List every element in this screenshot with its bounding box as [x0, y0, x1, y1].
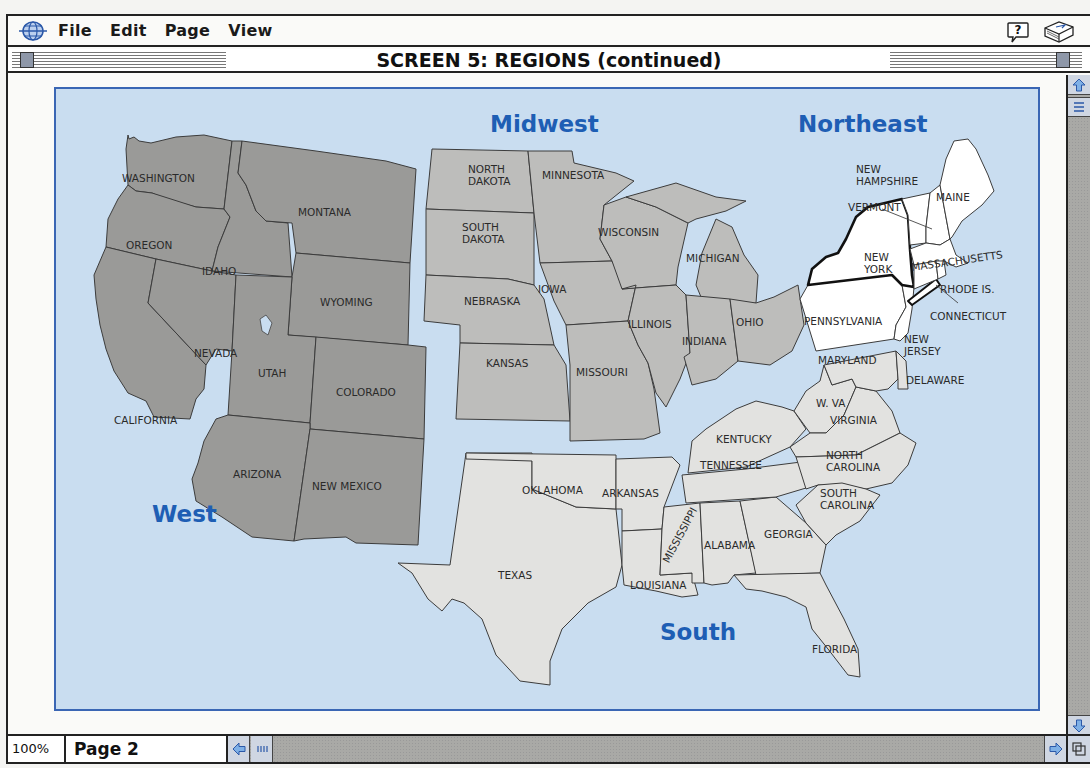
zoom-level[interactable]: 100% — [8, 736, 66, 762]
label-louisiana: LOUISIANA — [630, 579, 687, 591]
grip-icon — [1068, 98, 1090, 116]
state-kansas — [456, 343, 570, 421]
label-illinois: ILLINOIS — [628, 318, 672, 330]
state-florida — [734, 573, 860, 677]
region-label-south: South — [660, 619, 736, 645]
menu-view[interactable]: View — [228, 21, 272, 40]
menu-page[interactable]: Page — [165, 21, 211, 40]
label-arizona: ARIZONA — [233, 468, 281, 480]
label-vermont: VERMONT — [848, 201, 901, 213]
region-label-midwest: Midwest — [490, 111, 599, 137]
menu-bar: File Edit Page View ? — [8, 16, 1090, 47]
label-michigan: MICHIGAN — [686, 252, 740, 264]
label-georgia: GEORGIA — [764, 528, 813, 540]
resize-box[interactable] — [1066, 736, 1090, 762]
app-window: File Edit Page View ? SCREEN 5: REGIONS … — [6, 14, 1090, 764]
state-michigan — [696, 219, 758, 309]
page-indicator: Page 2 — [66, 736, 228, 762]
label-california: CALIFORNIA — [114, 414, 177, 426]
label-indiana: INDIANA — [682, 335, 726, 347]
state-maine — [940, 139, 994, 239]
label-pennsylvania: PENNSYLVANIA — [804, 315, 882, 327]
label-nebraska: NEBRASKA — [464, 295, 520, 307]
arrow-left-icon — [232, 742, 246, 756]
vertical-scroll-thumb[interactable] — [1068, 97, 1090, 117]
label-ohio: OHIO — [736, 316, 764, 328]
label-kansas: KANSAS — [486, 357, 528, 369]
arrow-down-icon — [1072, 719, 1086, 733]
label-tennessee: TENNESSEE — [700, 459, 762, 471]
label-north-dakota: NORTHDAKOTA — [468, 163, 510, 187]
horizontal-scroll-thumb[interactable] — [251, 736, 273, 762]
horizontal-scrollbar[interactable] — [228, 736, 1066, 762]
label-connecticut: CONNECTICUT — [930, 310, 1006, 322]
label-wyoming: WYOMING — [320, 296, 373, 308]
label-oklahoma: OKLAHOMA — [522, 484, 583, 496]
label-new-jersey: NEWJERSEY — [904, 333, 941, 357]
menu-edit[interactable]: Edit — [110, 21, 147, 40]
label-texas: TEXAS — [498, 569, 532, 581]
label-delaware: DELAWARE — [906, 374, 964, 386]
label-utah: UTAH — [258, 367, 286, 379]
label-alabama: ALABAMA — [704, 539, 755, 551]
title-bar: SCREEN 5: REGIONS (continued) — [8, 49, 1090, 73]
label-south-dakota: SOUTHDAKOTA — [462, 221, 504, 245]
label-new-york: NEWYORK — [864, 251, 892, 275]
label-nevada: NEVADA — [194, 347, 237, 359]
state-nebraska — [424, 275, 554, 345]
window-title: SCREEN 5: REGIONS (continued) — [8, 49, 1090, 72]
label-florida: FLORIDA — [812, 643, 857, 655]
help-balloon-icon[interactable]: ? — [1006, 20, 1030, 44]
arrow-right-icon — [1049, 742, 1063, 756]
vertical-scrollbar[interactable] — [1066, 75, 1090, 735]
label-missouri: MISSOURI — [576, 366, 628, 378]
label-north-carolina: NORTHCAROLINA — [826, 449, 880, 473]
svg-text:?: ? — [1015, 23, 1022, 37]
resize-icon — [1071, 741, 1087, 757]
us-regions-map: Midwest Northeast West South WASHINGTON … — [54, 87, 1040, 711]
scroll-up-button[interactable] — [1068, 75, 1090, 95]
status-bar: 100% Page 2 — [8, 734, 1090, 762]
label-montana: MONTANA — [298, 206, 351, 218]
scroll-right-button[interactable] — [1044, 736, 1066, 762]
state-pennsylvania — [800, 275, 906, 351]
globe-icon[interactable] — [18, 20, 48, 42]
arrow-up-icon — [1072, 78, 1086, 92]
label-minnesota: MINNESOTA — [542, 169, 604, 181]
label-idaho: IDAHO — [202, 265, 236, 277]
label-maine: MAINE — [936, 191, 970, 203]
label-colorado: COLORADO — [336, 386, 396, 398]
label-maryland: MARYLAND — [818, 354, 877, 366]
label-wisconsin: WISCONSIN — [598, 226, 659, 238]
label-west-virginia: W. VA — [816, 397, 846, 409]
menu-file[interactable]: File — [58, 21, 92, 40]
label-new-hampshire: NEWHAMPSHIRE — [856, 163, 918, 187]
label-kentucky: KENTUCKY — [716, 433, 772, 445]
region-label-northeast: Northeast — [798, 111, 928, 137]
label-washington: WASHINGTON — [122, 172, 195, 184]
grip-icon — [254, 742, 270, 756]
label-new-mexico: NEW MEXICO — [312, 480, 382, 492]
label-south-carolina: SOUTHCAROLINA — [820, 487, 874, 511]
page-content: Midwest Northeast West South WASHINGTON … — [8, 75, 1066, 735]
label-arkansas: ARKANSAS — [602, 487, 659, 499]
label-oregon: OREGON — [126, 239, 172, 251]
scroll-left-button[interactable] — [228, 736, 250, 762]
book-icon[interactable] — [1042, 19, 1076, 45]
label-virginia: VIRGINIA — [830, 414, 877, 426]
scroll-down-button[interactable] — [1068, 715, 1090, 735]
region-label-west: West — [152, 501, 217, 527]
label-rhode-island: RHODE IS. — [940, 283, 995, 295]
label-iowa: IOWA — [538, 283, 566, 295]
